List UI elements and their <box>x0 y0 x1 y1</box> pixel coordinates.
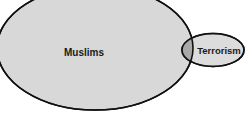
muslims-label: Muslims <box>64 47 104 58</box>
terrorism-label: Terrorism <box>197 45 241 56</box>
venn-diagram: Muslims Terrorism <box>0 0 250 115</box>
